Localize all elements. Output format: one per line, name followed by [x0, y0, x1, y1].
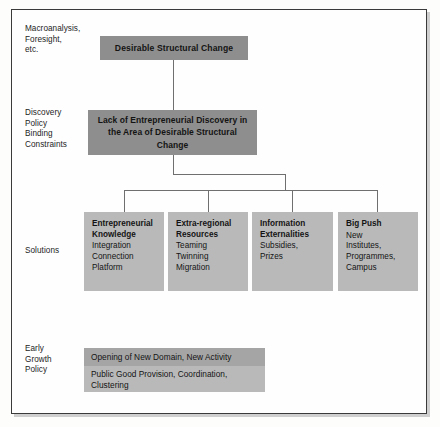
row-label-early-growth-policy: Early Growth Policy	[25, 344, 52, 376]
connector-drop-solution-3	[292, 190, 293, 212]
connector-problem-jog	[173, 174, 286, 175]
node-solution-information-externalities[interactable]: Information Externalities Subsidies, Pri…	[252, 212, 333, 291]
solution-title: Extra-regional Resources	[176, 219, 241, 240]
connector-problem-stem	[173, 155, 174, 175]
connector-drop-solution-2	[208, 190, 209, 212]
solution-items: New Institutes, Programmes, Campus	[346, 231, 411, 274]
diagram-canvas: Macroanalysis, Foresight, etc. Discovery…	[0, 0, 440, 427]
solution-title: Information Externalities	[260, 219, 326, 240]
node-solution-big-push[interactable]: Big Push New Institutes, Programmes, Cam…	[338, 212, 418, 291]
node-solution-extra-regional-resources[interactable]: Extra-regional Resources Teaming Twinnin…	[168, 212, 248, 291]
node-desirable-structural-change[interactable]: Desirable Structural Change	[100, 36, 248, 60]
row-label-discovery-policy: Discovery Policy Binding Constraints	[25, 108, 67, 150]
solution-items: Teaming Twinning Migration	[176, 241, 241, 273]
solution-title: Big Push	[346, 219, 411, 230]
solution-title: Entrepreneurial Knowledge	[92, 219, 157, 240]
row-label-macroanalysis: Macroanalysis, Foresight, etc.	[25, 24, 80, 56]
connector-drop-solution-4	[377, 190, 378, 212]
row-label-solutions: Solutions	[25, 246, 59, 257]
solution-items: Subsidies, Prizes	[260, 241, 326, 263]
diagram-content: Macroanalysis, Foresight, etc. Discovery…	[0, 0, 440, 427]
connector-jog-down	[285, 174, 286, 191]
connector-drop-solution-1	[124, 190, 125, 212]
node-solution-entrepreneurial-knowledge[interactable]: Entrepreneurial Knowledge Integration Co…	[84, 212, 164, 291]
connector-distribution-bar	[124, 190, 378, 191]
connector-top-to-problem	[173, 60, 174, 110]
node-outcome-opening-new-domain[interactable]: Opening of New Domain, New Activity	[84, 348, 265, 366]
node-outcome-public-good-provision[interactable]: Public Good Provision, Coordination, Clu…	[84, 366, 265, 392]
solution-items: Integration Connection Platform	[92, 241, 157, 273]
node-lack-of-entrepreneurial-discovery[interactable]: Lack of Entrepreneurial Discovery in the…	[88, 110, 257, 155]
